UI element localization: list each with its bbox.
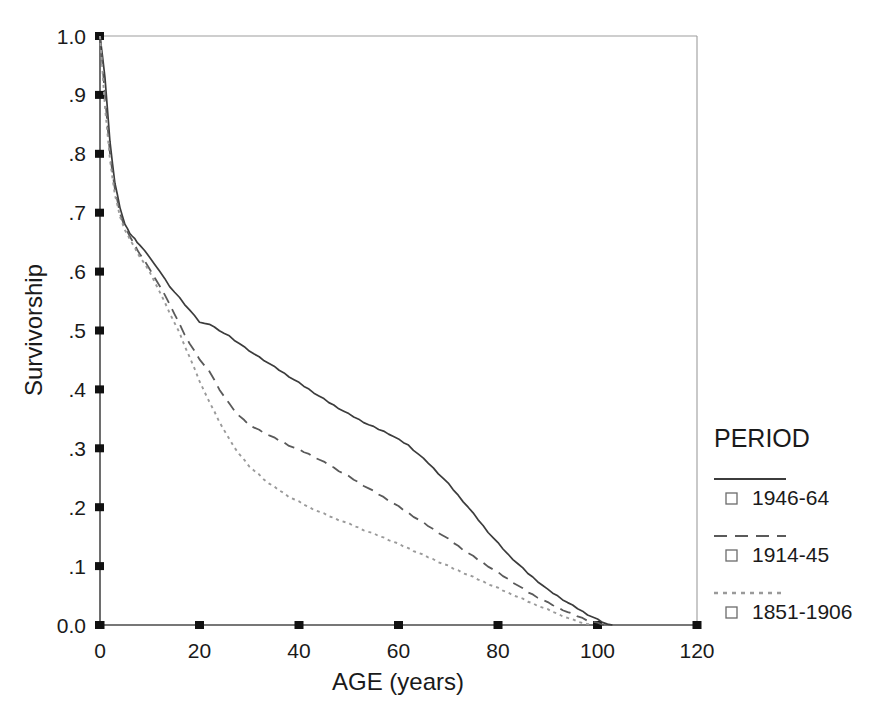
x-axis-title: AGE (years) — [332, 668, 464, 695]
x-tick-label: 20 — [188, 639, 211, 662]
legend-label-1914-45: 1914-45 — [752, 543, 829, 566]
legend-title: PERIOD — [714, 424, 810, 452]
x-tick-label: 80 — [486, 639, 509, 662]
y-tick-mark — [95, 327, 104, 335]
axis-frame — [100, 36, 697, 625]
y-tick-mark — [95, 268, 104, 276]
x-tick-label: 0 — [94, 639, 106, 662]
y-tick-label: .9 — [68, 83, 86, 106]
y-tick-label: .8 — [68, 142, 86, 165]
y-tick-mark — [95, 503, 104, 511]
curve-1946-64 — [100, 36, 612, 625]
legend-marker-square — [726, 493, 737, 504]
survivorship-chart-figure: 0.0.1.2.3.4.5.6.7.8.91.0 020406080100120… — [0, 0, 881, 715]
y-tick-mark — [95, 444, 104, 452]
curve-1914-45 — [100, 36, 607, 625]
y-axis-ticks: 0.0.1.2.3.4.5.6.7.8.91.0 — [57, 25, 104, 637]
x-tick-mark — [96, 621, 105, 629]
legend-marker-square — [726, 607, 737, 618]
x-tick-mark — [295, 621, 304, 629]
y-tick-label: 1.0 — [57, 25, 86, 48]
y-axis-title: Survivorship — [20, 264, 47, 396]
chart-svg: 0.0.1.2.3.4.5.6.7.8.91.0 020406080100120… — [0, 0, 881, 715]
y-tick-mark — [95, 562, 104, 570]
y-tick-label: .1 — [68, 555, 86, 578]
x-tick-label: 40 — [287, 639, 310, 662]
y-tick-label: .6 — [68, 260, 86, 283]
legend-label-1851-1906: 1851-1906 — [752, 600, 852, 623]
y-tick-label: .4 — [68, 378, 86, 401]
y-tick-mark — [95, 385, 104, 393]
data-curves — [100, 36, 612, 625]
x-tick-label: 60 — [387, 639, 410, 662]
y-tick-mark — [95, 91, 104, 99]
legend: PERIOD 1946-641914-451851-1906 — [714, 424, 852, 623]
legend-marker-square — [726, 550, 737, 561]
y-tick-label: 0.0 — [57, 614, 86, 637]
y-tick-label: .5 — [68, 319, 86, 342]
y-tick-mark — [95, 150, 104, 158]
y-tick-mark — [95, 209, 104, 217]
y-tick-label: .3 — [68, 437, 86, 460]
x-tick-mark — [494, 621, 503, 629]
y-tick-label: .7 — [68, 201, 86, 224]
x-tick-mark — [693, 621, 702, 629]
x-axis-ticks: 020406080100120 — [94, 621, 714, 662]
x-tick-mark — [195, 621, 204, 629]
x-tick-label: 100 — [580, 639, 615, 662]
legend-label-1946-64: 1946-64 — [752, 486, 829, 509]
legend-entries: 1946-641914-451851-1906 — [714, 479, 852, 623]
curve-1851-1906 — [100, 36, 593, 624]
x-tick-label: 120 — [679, 639, 714, 662]
y-tick-label: .2 — [68, 496, 86, 519]
x-tick-mark — [394, 621, 403, 629]
